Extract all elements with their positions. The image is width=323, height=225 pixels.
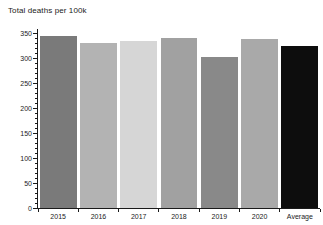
y-major-tick — [33, 58, 37, 59]
y-minor-tick — [35, 188, 37, 189]
y-minor-tick — [35, 153, 37, 154]
y-minor-tick — [35, 93, 37, 94]
x-boundary-tick — [78, 209, 79, 212]
bar-2018 — [161, 38, 198, 208]
bar-2015 — [40, 36, 77, 209]
x-tick-label-2020: 2020 — [239, 213, 279, 221]
bar-2019 — [201, 57, 238, 209]
y-tick-label: 200 — [2, 105, 32, 112]
y-major-tick — [33, 33, 37, 34]
x-boundary-tick — [239, 209, 240, 212]
y-tick-label: 350 — [2, 30, 32, 37]
y-minor-tick — [35, 123, 37, 124]
y-minor-tick — [35, 173, 37, 174]
chart-title: Total deaths per 100k — [8, 6, 87, 15]
bar-2020 — [241, 39, 278, 208]
x-boundary-tick — [38, 209, 39, 212]
plot-area: 050100150200250300350 201520162017201820… — [38, 33, 320, 208]
y-minor-tick — [35, 38, 37, 39]
y-tick-label: 300 — [2, 55, 32, 62]
y-tick-label: 150 — [2, 130, 32, 137]
x-tick-label-2017: 2017 — [119, 213, 159, 221]
y-major-tick — [33, 108, 37, 109]
y-axis-line — [37, 29, 38, 209]
y-minor-tick — [35, 148, 37, 149]
y-minor-tick — [35, 53, 37, 54]
y-minor-tick — [35, 88, 37, 89]
y-minor-tick — [35, 143, 37, 144]
x-boundary-tick — [199, 209, 200, 212]
x-boundary-tick — [279, 209, 280, 212]
bar-chart: Total deaths per 100k 050100150200250300… — [0, 0, 323, 225]
y-minor-tick — [35, 113, 37, 114]
x-tick-label-2019: 2019 — [199, 213, 239, 221]
y-tick-label: 50 — [2, 180, 32, 187]
bar-2017 — [120, 41, 157, 209]
x-axis-line — [37, 208, 320, 209]
x-tick-label-2015: 2015 — [38, 213, 78, 221]
y-minor-tick — [35, 138, 37, 139]
y-minor-tick — [35, 68, 37, 69]
x-tick-label-average: Average — [280, 213, 320, 221]
y-minor-tick — [35, 128, 37, 129]
y-tick-label: 100 — [2, 155, 32, 162]
bar-average — [281, 46, 318, 209]
y-minor-tick — [35, 178, 37, 179]
y-minor-tick — [35, 168, 37, 169]
y-minor-tick — [35, 203, 37, 204]
y-minor-tick — [35, 73, 37, 74]
y-minor-tick — [35, 163, 37, 164]
y-tick-label: 250 — [2, 80, 32, 87]
y-major-tick — [33, 183, 37, 184]
y-minor-tick — [35, 78, 37, 79]
y-major-tick — [33, 83, 37, 84]
x-tick-label-2018: 2018 — [159, 213, 199, 221]
y-major-tick — [33, 158, 37, 159]
bar-2016 — [80, 43, 117, 208]
y-minor-tick — [35, 48, 37, 49]
y-minor-tick — [35, 193, 37, 194]
x-boundary-tick — [118, 209, 119, 212]
x-tick-label-2016: 2016 — [78, 213, 118, 221]
y-minor-tick — [35, 43, 37, 44]
y-minor-tick — [35, 98, 37, 99]
y-major-tick — [33, 133, 37, 134]
y-tick-label: 0 — [2, 205, 32, 212]
y-minor-tick — [35, 118, 37, 119]
y-minor-tick — [35, 103, 37, 104]
y-minor-tick — [35, 63, 37, 64]
y-minor-tick — [35, 198, 37, 199]
x-boundary-tick — [158, 209, 159, 212]
x-boundary-tick — [320, 209, 321, 212]
